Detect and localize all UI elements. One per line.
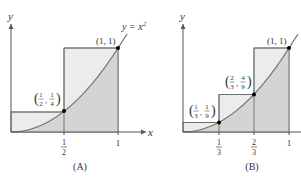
svg-text:3: 3: [230, 83, 234, 91]
svg-text:3: 3: [194, 112, 198, 120]
x-tick-a-half-num: 1: [62, 138, 66, 147]
x-tick-b-twothirds-num: 2: [252, 138, 256, 147]
svg-text:(: (: [225, 74, 230, 90]
svg-text:,: ,: [200, 108, 202, 117]
x-tick-b-third-num: 1: [217, 138, 221, 147]
svg-text:1: 1: [205, 103, 209, 111]
y-axis-label-a: y: [7, 10, 13, 22]
svg-text:4: 4: [50, 100, 54, 108]
point-label-a-one: (1, 1): [96, 36, 116, 46]
svg-text:,: ,: [45, 96, 47, 105]
point-label-b-third: ( 1 3 , 1 9 ): [189, 103, 216, 120]
riemann-sum-diagram: y 1 2 1 ( 1 2 , 1 4 ) (1, 1) y = x2 x (A…: [0, 0, 301, 179]
svg-text:): ): [211, 103, 216, 119]
svg-text:): ): [247, 74, 252, 90]
svg-text:4: 4: [241, 74, 245, 82]
svg-text:,: ,: [236, 79, 238, 88]
point-label-b-one: (1, 1): [267, 36, 287, 46]
svg-text:(: (: [34, 91, 39, 107]
svg-text:): ): [56, 91, 61, 107]
x-tick-b-twothirds-den: 3: [252, 148, 256, 157]
y-axis-label-b: y: [179, 10, 185, 22]
svg-text:9: 9: [241, 83, 245, 91]
point-b-twothirds: [252, 93, 256, 97]
panel-a: y 1 2 1 ( 1 2 , 1 4 ) (1, 1) y = x2 x (A…: [7, 10, 153, 173]
point-label-b-twothirds: ( 2 3 , 4 9 ): [225, 74, 252, 91]
x-axis-label-a: x: [147, 126, 153, 138]
x-tick-b-one: 1: [287, 138, 292, 148]
curve-label-a: y = x2: [121, 20, 147, 32]
svg-text:1: 1: [194, 103, 198, 111]
point-b-third: [217, 121, 221, 125]
point-a-half: [62, 109, 66, 113]
svg-text:2: 2: [39, 100, 43, 108]
x-tick-b-third-den: 3: [217, 148, 221, 157]
svg-text:1: 1: [39, 91, 43, 99]
point-b-one: [287, 46, 291, 50]
point-a-one: [116, 46, 120, 50]
svg-text:(: (: [189, 103, 194, 119]
caption-b: (B): [245, 161, 258, 173]
caption-a: (A): [73, 161, 87, 173]
svg-text:9: 9: [205, 112, 209, 120]
x-tick-a-half-den: 2: [62, 148, 66, 157]
x-tick-a-one: 1: [116, 138, 121, 148]
svg-text:2: 2: [230, 74, 234, 82]
panel-b: y 1 3 2 3 1 ( 1 3 , 1 9 ) ( 2: [179, 10, 301, 173]
svg-text:1: 1: [50, 91, 54, 99]
point-label-a-half: ( 1 2 , 1 4 ): [34, 91, 61, 108]
